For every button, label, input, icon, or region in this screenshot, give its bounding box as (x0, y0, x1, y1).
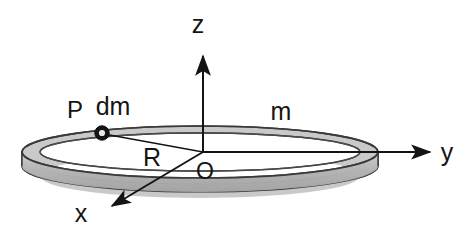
point-p-marker (95, 126, 109, 140)
diagram-canvas: z y x O P dm m R (0, 0, 473, 234)
point-p-label: P (67, 96, 83, 123)
y-axis-label: y (441, 138, 454, 166)
ring-diagram-figure: z y x O P dm m R (0, 0, 473, 234)
ring-mass-label: m (271, 97, 292, 125)
z-axis-label: z (192, 10, 205, 38)
mass-element-label: dm (96, 92, 131, 120)
origin-label: O (196, 158, 214, 184)
radius-label: R (143, 143, 161, 171)
point-p-inner-hole (99, 130, 105, 136)
x-axis-label: x (75, 199, 88, 227)
